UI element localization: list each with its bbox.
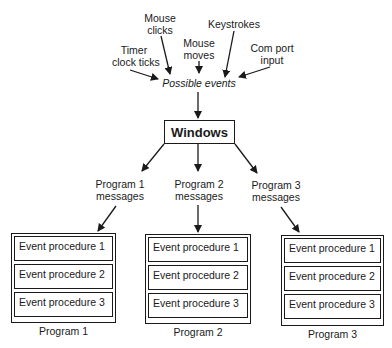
arrow-timer [130, 70, 158, 79]
possible-events-label: Possible events [158, 77, 240, 89]
program-1-box: Event procedure 1 Event procedure 2 Even… [11, 233, 116, 323]
arrow-mouse-clicks [161, 36, 170, 74]
event-procedure: Event procedure 1 [148, 237, 248, 262]
event-procedure: Event procedure 1 [14, 236, 113, 261]
event-procedure: Event procedure 3 [148, 293, 248, 318]
windows-box: Windows [164, 120, 235, 144]
event-procedure: Event procedure 3 [14, 292, 113, 317]
arrow-msg-p1 [98, 206, 116, 231]
program-2-box: Event procedure 1 Event procedure 2 Even… [145, 234, 251, 324]
program-1-label: Program 1 [11, 325, 116, 337]
event-procedure: Event procedure 2 [284, 266, 381, 291]
arrow-windows-p3 [235, 144, 257, 173]
program-3-box: Event procedure 1 Event procedure 2 Even… [281, 235, 384, 326]
event-procedure: Event procedure 1 [284, 238, 381, 263]
arrow-msg-p3 [281, 207, 299, 232]
arrow-windows-p1 [142, 144, 164, 171]
messages-program-1: Program 1 messages [94, 178, 146, 202]
source-mouse-clicks: Mouse clicks [140, 12, 180, 36]
messages-program-2: Program 2 messages [173, 178, 225, 202]
source-timer: Timer clock ticks [112, 44, 156, 68]
event-procedure: Event procedure 2 [14, 264, 113, 289]
source-keystrokes: Keystrokes [208, 18, 258, 30]
arrow-com-port [239, 67, 270, 77]
arrow-keystrokes [225, 31, 234, 77]
program-2-label: Program 2 [145, 326, 251, 338]
messages-program-3: Program 3 messages [250, 179, 302, 203]
event-procedure: Event procedure 3 [284, 294, 381, 319]
source-com-port: Com port input [250, 42, 294, 66]
source-mouse-moves: Mouse moves [180, 37, 218, 61]
event-procedure: Event procedure 2 [148, 265, 248, 290]
program-3-label: Program 3 [281, 328, 384, 340]
windows-label: Windows [171, 125, 228, 140]
